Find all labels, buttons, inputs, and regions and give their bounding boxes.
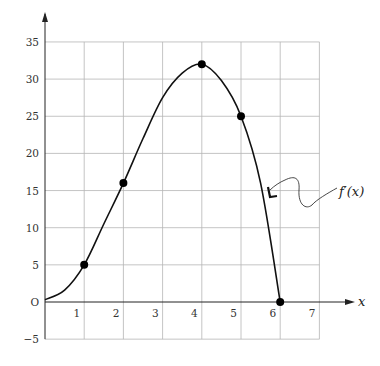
x-tick-label: 2	[113, 307, 120, 319]
y-tick-label: 35	[26, 36, 39, 48]
x-tick-label: 4	[191, 307, 198, 319]
x-axis-arrow-icon	[345, 299, 355, 305]
y-tick-label: −5	[24, 333, 39, 345]
data-point	[80, 261, 88, 269]
x-axis-label: x	[358, 294, 366, 309]
data-point	[276, 298, 284, 306]
y-axis-arrow-icon	[42, 12, 48, 22]
x-tick-label: 1	[74, 307, 81, 319]
annotation-label: f′(x)	[338, 184, 364, 199]
x-tick-label: 6	[270, 307, 277, 319]
x-tick-label: 7	[309, 307, 316, 319]
y-tick-label: 10	[26, 222, 39, 234]
x-tick-label: 5	[230, 307, 237, 319]
y-tick-label: 5	[32, 259, 39, 271]
annotation-arrowhead-icon	[268, 187, 277, 197]
x-tick-label: 3	[152, 307, 159, 319]
data-point	[237, 112, 245, 120]
data-point	[198, 60, 206, 68]
y-tick-label: 20	[26, 147, 39, 159]
y-tick-label: 15	[26, 185, 39, 197]
chart: 1234567−55101520253035Ox f′(x)	[0, 0, 380, 366]
axes	[42, 12, 355, 339]
marked-points	[80, 60, 284, 306]
y-tick-label: 30	[26, 73, 39, 85]
origin-label: O	[30, 296, 39, 308]
annotation: f′(x)	[268, 178, 364, 207]
data-point	[119, 179, 127, 187]
y-tick-label: 25	[26, 110, 39, 122]
